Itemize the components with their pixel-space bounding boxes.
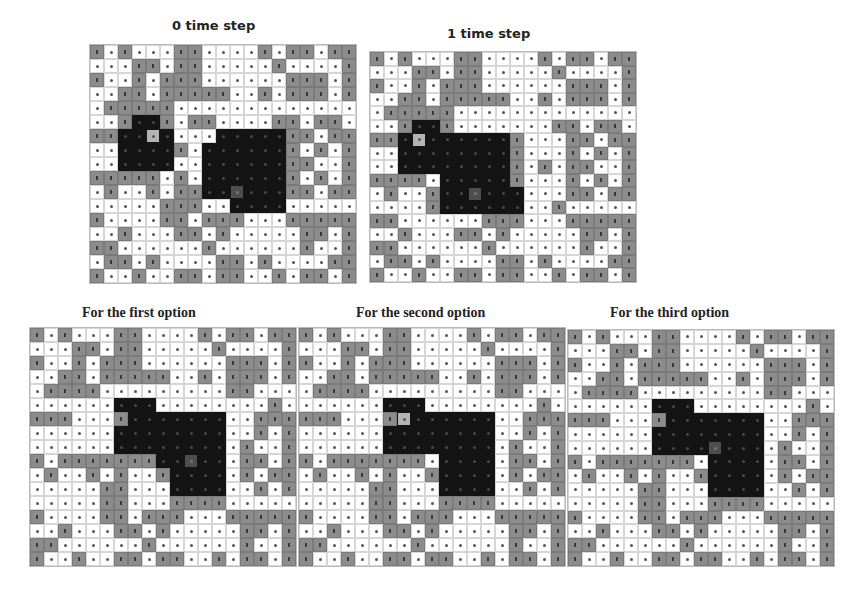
grid-cell	[524, 268, 538, 282]
grid-cell	[708, 358, 722, 372]
grid-cell	[230, 157, 244, 171]
grid-cell	[198, 496, 212, 510]
grid-cell	[439, 524, 453, 538]
grid-cell	[538, 133, 552, 147]
grid-cell	[509, 398, 523, 412]
grid-cell	[230, 213, 244, 227]
grid-cell	[355, 440, 369, 454]
grid-cell	[425, 454, 439, 468]
grid-cell	[146, 87, 160, 101]
grid-cell	[198, 342, 212, 356]
grid-cell	[341, 384, 355, 398]
grid-cell	[467, 440, 481, 454]
grid-cell	[666, 386, 680, 400]
grid-cell	[212, 370, 226, 384]
grid-cell	[341, 356, 355, 370]
grid-cell	[370, 160, 384, 174]
grid-cell	[596, 441, 610, 455]
grid-cell	[355, 356, 369, 370]
grid-cell	[170, 398, 184, 412]
grid-cell	[370, 201, 384, 215]
grid-cell	[254, 370, 268, 384]
grid-cell	[272, 199, 286, 213]
grid-cell	[666, 344, 680, 358]
grid-cell	[384, 147, 398, 161]
grid-cell	[58, 370, 72, 384]
grid-cell	[160, 101, 174, 115]
grid-cell	[398, 66, 412, 80]
grid-cell	[383, 426, 397, 440]
grid-cell	[226, 412, 240, 426]
grid-cell	[118, 213, 132, 227]
grid-cell	[425, 440, 439, 454]
grid-cell	[524, 187, 538, 201]
grid-cell	[230, 227, 244, 241]
grid-cell	[272, 241, 286, 255]
grid-cell	[610, 455, 624, 469]
grid-cell	[496, 106, 510, 120]
grid-cell	[610, 497, 624, 511]
grid-cell	[468, 66, 482, 80]
grid-cell	[397, 384, 411, 398]
grid-cell	[694, 483, 708, 497]
grid-cell	[439, 412, 453, 426]
grid-cell	[622, 52, 636, 66]
grid-cell	[174, 227, 188, 241]
grid-cell	[778, 483, 792, 497]
grid-cell	[694, 372, 708, 386]
grid-cell	[100, 356, 114, 370]
grid-cell	[594, 174, 608, 188]
grid-cell	[72, 468, 86, 482]
grid-cell	[439, 454, 453, 468]
grid-cell	[638, 524, 652, 538]
grid-cell	[282, 398, 296, 412]
grid-cell	[142, 552, 156, 566]
grid-cell	[666, 399, 680, 413]
grid-cell	[104, 241, 118, 255]
grid-cell	[104, 45, 118, 59]
grid-cell	[58, 552, 72, 566]
grid-cell	[226, 384, 240, 398]
grid-cell	[230, 199, 244, 213]
grid-cell	[792, 469, 806, 483]
grid-cell	[160, 185, 174, 199]
grid-cell	[369, 426, 383, 440]
grid-cell	[610, 552, 624, 566]
grid-cell	[341, 328, 355, 342]
grid-cell	[142, 454, 156, 468]
grid-cell	[170, 426, 184, 440]
grid-cell	[30, 468, 44, 482]
grid-cell	[523, 496, 537, 510]
grid-cell	[778, 538, 792, 552]
grid-cell	[156, 412, 170, 426]
grid-cell	[240, 384, 254, 398]
grid-cell	[806, 427, 820, 441]
grid-cell	[212, 356, 226, 370]
grid-cell	[426, 241, 440, 255]
grid-cell	[104, 157, 118, 171]
grid-cell	[58, 412, 72, 426]
grid-cell	[272, 129, 286, 143]
grid-cell	[30, 454, 44, 468]
grid-cell	[272, 87, 286, 101]
grid-cell	[495, 384, 509, 398]
grid-cell	[538, 52, 552, 66]
grid-cell	[268, 356, 282, 370]
grid-cell	[411, 468, 425, 482]
grid-cell	[551, 398, 565, 412]
grid-cell	[90, 199, 104, 213]
grid-cell	[792, 330, 806, 344]
grid-cell	[146, 269, 160, 283]
grid-cell	[440, 255, 454, 269]
grid-cell	[764, 413, 778, 427]
grid-cell	[230, 143, 244, 157]
grid-cell	[244, 255, 258, 269]
grid-cell	[397, 538, 411, 552]
panel-title: For the first option	[82, 305, 196, 321]
grid-cell	[680, 372, 694, 386]
grid-cell	[806, 441, 820, 455]
grid-cell	[510, 201, 524, 215]
grid-cell	[566, 106, 580, 120]
grid-cell	[608, 66, 622, 80]
grid-cell	[652, 469, 666, 483]
